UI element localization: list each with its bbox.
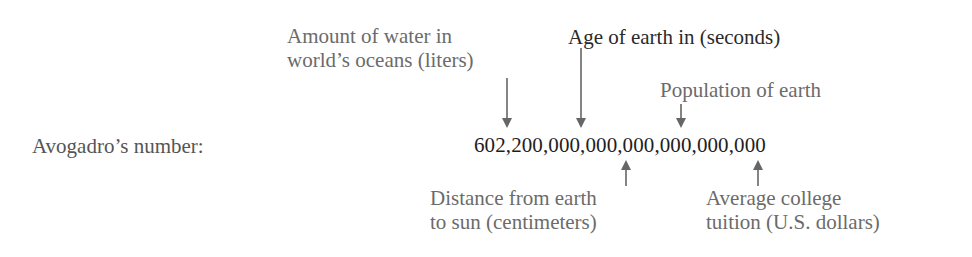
population-arrow-icon — [676, 104, 686, 128]
age-arrow-icon — [576, 48, 586, 128]
tuition-arrow-icon — [753, 160, 763, 186]
arrows-layer — [0, 0, 972, 257]
water-arrow-icon — [502, 78, 512, 128]
distance-arrow-icon — [621, 160, 631, 186]
